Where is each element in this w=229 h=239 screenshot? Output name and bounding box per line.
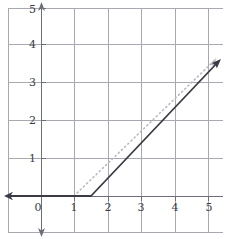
- tick-label-layer: 0 1 2 3 4 5 1 2 3 4 5: [0, 0, 229, 239]
- y-tick-label-5: 5: [24, 4, 36, 15]
- y-tick-label-3: 3: [24, 77, 36, 88]
- x-tick-label-5: 5: [206, 202, 213, 213]
- x-tick-label-4: 4: [172, 202, 179, 213]
- x-tick-label-2: 2: [105, 202, 112, 213]
- y-tick-label-4: 4: [24, 39, 36, 50]
- y-tick-label-1: 1: [24, 153, 36, 164]
- y-tick-label-2: 2: [24, 115, 36, 126]
- graph-canvas: 0 1 2 3 4 5 1 2 3 4 5: [0, 0, 229, 239]
- x-tick-label-3: 3: [138, 202, 145, 213]
- x-tick-label-1: 1: [71, 202, 78, 213]
- x-tick-label-0: 0: [35, 202, 42, 213]
